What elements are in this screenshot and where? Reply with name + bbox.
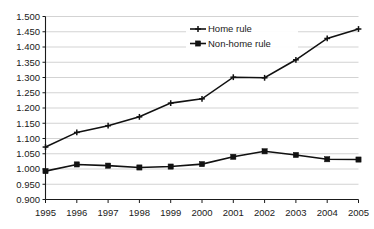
y-axis-tick-label: 1.000 — [16, 163, 40, 174]
legend-marker-square — [195, 41, 200, 46]
x-axis-tick-label: 1998 — [129, 207, 150, 218]
y-axis-tick-label: 0.950 — [16, 179, 40, 190]
data-point-marker — [199, 162, 204, 167]
x-axis-tick-label: 2001 — [223, 207, 244, 218]
y-axis-tick-label: 1.500 — [16, 11, 40, 22]
y-axis-tick-label: 1.200 — [16, 102, 40, 113]
legend-label: Home rule — [208, 23, 252, 34]
y-axis-tick-label: 1.050 — [16, 148, 40, 159]
x-axis-tick-label: 2003 — [285, 207, 306, 218]
data-point-marker — [293, 152, 298, 157]
x-axis-tick-labels: 1995199619971998199920002001200220032004… — [35, 207, 369, 218]
x-axis-tick-label: 1997 — [98, 207, 119, 218]
x-axis-tick-label: 1999 — [160, 207, 181, 218]
data-point-marker — [106, 163, 111, 168]
data-point-marker — [43, 169, 48, 174]
x-axis-tick-label: 1995 — [35, 207, 56, 218]
legend-label: Non-home rule — [208, 38, 271, 49]
y-axis-tick-label: 1.300 — [16, 72, 40, 83]
x-axis-tick-label: 1996 — [66, 207, 87, 218]
x-axis-tick-label: 2000 — [191, 207, 212, 218]
chart-canvas: 1.5001.4501.4001.3501.3001.2501.2001.150… — [0, 0, 374, 229]
y-axis-tick-label: 1.450 — [16, 26, 40, 37]
data-point-marker — [325, 157, 330, 162]
data-point-marker — [137, 165, 142, 170]
y-axis-tick-label: 0.900 — [16, 194, 40, 205]
y-axis-tick-label: 1.250 — [16, 87, 40, 98]
y-axis-tick-label: 1.150 — [16, 118, 40, 129]
data-point-marker — [262, 149, 267, 154]
data-point-marker — [74, 162, 79, 167]
line-chart: 1.5001.4501.4001.3501.3001.2501.2001.150… — [0, 0, 374, 229]
y-axis-tick-label: 1.350 — [16, 57, 40, 68]
data-point-marker — [231, 154, 236, 159]
y-axis-tick-label: 1.100 — [16, 133, 40, 144]
x-axis-tick-label: 2004 — [317, 207, 338, 218]
chart-legend: Home ruleNon-home rule — [186, 18, 298, 50]
x-axis-tick-label: 2005 — [348, 207, 369, 218]
x-axis-tick-label: 2002 — [254, 207, 275, 218]
data-point-marker — [356, 157, 361, 162]
data-point-marker — [168, 164, 173, 169]
y-axis-tick-label: 1.400 — [16, 41, 40, 52]
